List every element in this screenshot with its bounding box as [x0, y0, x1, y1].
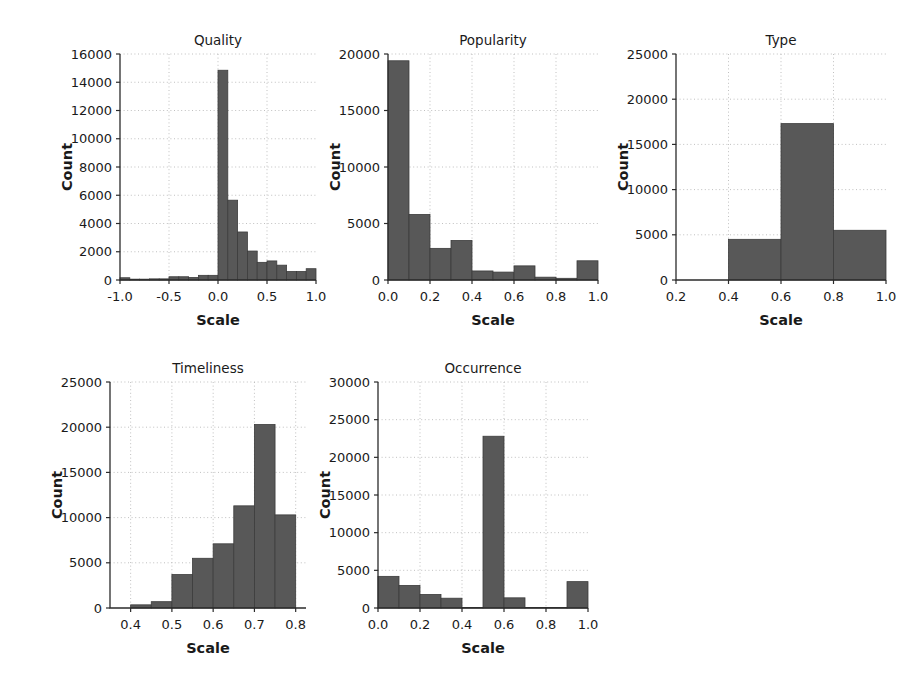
y-tick-label: 10000	[61, 510, 102, 525]
x-axis-label: Scale	[759, 312, 803, 328]
histogram-bar	[514, 266, 535, 280]
histogram-bar	[781, 124, 834, 280]
y-axis-label: Count	[49, 471, 65, 519]
x-tick-label: 0.8	[546, 289, 567, 304]
y-axis-label: Count	[615, 143, 631, 191]
histogram-bar	[430, 248, 451, 280]
histogram-bar	[420, 594, 441, 608]
y-tick-label: 20000	[61, 420, 102, 435]
histogram-bar	[504, 598, 525, 608]
histogram-bar	[254, 424, 275, 608]
y-tick-label: 12000	[71, 103, 112, 118]
y-axis-label: Count	[59, 143, 75, 191]
histogram-bar	[247, 251, 257, 280]
histogram-bar	[729, 239, 782, 280]
histogram-bar	[296, 272, 306, 280]
chart-title: Type	[764, 32, 796, 48]
x-tick-label: 0.2	[420, 289, 441, 304]
y-tick-label: 4000	[79, 216, 112, 231]
y-tick-label: 15000	[61, 465, 102, 480]
y-tick-label: 10000	[329, 525, 370, 540]
x-axis-label: Scale	[186, 640, 230, 656]
y-tick-label: 5000	[337, 563, 370, 578]
chart-panel-popularity: 050001000015000200000.00.20.40.60.81.0Po…	[326, 28, 608, 338]
histogram-bar	[306, 269, 316, 280]
chart-title: Quality	[194, 32, 242, 48]
y-tick-label: 20000	[339, 47, 380, 62]
y-tick-label: 30000	[329, 375, 370, 390]
x-tick-label: 0.6	[771, 289, 792, 304]
x-axis-label: Scale	[196, 312, 240, 328]
chart-panel-type: 05000100001500020000250000.20.40.60.81.0…	[614, 28, 896, 338]
histogram-bar	[567, 582, 588, 608]
histogram-bar	[451, 240, 472, 280]
histogram-type: 05000100001500020000250000.20.40.60.81.0…	[614, 28, 896, 338]
x-tick-label: 1.0	[306, 289, 327, 304]
chart-title: Timeliness	[171, 360, 243, 376]
chart-panel-quality: 0200040006000800010000120001400016000-1.…	[58, 28, 326, 338]
y-tick-label: 0	[362, 601, 370, 616]
x-axis-label: Scale	[461, 640, 505, 656]
bars	[378, 436, 588, 608]
y-tick-label: 10000	[71, 131, 112, 146]
x-tick-label: 0.8	[823, 289, 844, 304]
y-tick-label: 10000	[627, 182, 668, 197]
y-tick-label: 15000	[339, 103, 380, 118]
histogram-quality: 0200040006000800010000120001400016000-1.…	[58, 28, 326, 338]
chart-title: Occurrence	[444, 360, 521, 376]
x-tick-label: -0.5	[156, 289, 181, 304]
y-tick-label: 15000	[329, 488, 370, 503]
histogram-bar	[208, 275, 218, 280]
y-tick-label: 5000	[635, 227, 668, 242]
histogram-bar	[409, 214, 430, 280]
histogram-popularity: 050001000015000200000.00.20.40.60.81.0Po…	[326, 28, 608, 338]
histogram-bar	[238, 232, 248, 280]
histogram-bar	[399, 585, 420, 608]
histogram-bar	[198, 275, 208, 280]
chart-title: Popularity	[459, 32, 527, 48]
y-tick-label: 0	[372, 273, 380, 288]
histogram-bar	[277, 265, 287, 280]
histogram-bar	[172, 575, 193, 608]
histogram-bar	[257, 262, 267, 280]
histogram-bar	[193, 558, 214, 608]
histogram-bar	[493, 272, 514, 280]
chart-panel-timeliness: 05000100001500020000250000.40.50.60.70.8…	[48, 356, 316, 666]
histogram-bar	[151, 602, 172, 608]
x-tick-label: 1.0	[876, 289, 897, 304]
x-tick-label: 0.6	[494, 617, 515, 632]
x-tick-label: 0.4	[462, 289, 483, 304]
x-tick-label: 0.0	[368, 617, 389, 632]
histogram-figure: 0200040006000800010000120001400016000-1.…	[0, 0, 904, 680]
x-tick-label: 0.7	[244, 617, 265, 632]
histogram-bar	[228, 200, 238, 280]
histogram-bar	[388, 61, 409, 280]
bars	[388, 61, 598, 280]
x-tick-label: 0.6	[504, 289, 525, 304]
x-tick-label: 0.6	[203, 617, 224, 632]
y-tick-label: 8000	[79, 160, 112, 175]
y-tick-label: 25000	[61, 375, 102, 390]
histogram-timeliness: 05000100001500020000250000.40.50.60.70.8…	[48, 356, 316, 666]
y-tick-label: 6000	[79, 188, 112, 203]
histogram-bar	[275, 515, 296, 608]
y-tick-label: 25000	[627, 47, 668, 62]
x-tick-label: 0.0	[208, 289, 229, 304]
y-axis-label: Count	[327, 143, 343, 191]
y-tick-label: 10000	[339, 160, 380, 175]
histogram-bar	[472, 271, 493, 280]
histogram-bar	[213, 544, 234, 608]
histogram-bar	[483, 436, 504, 608]
y-tick-label: 2000	[79, 244, 112, 259]
x-tick-label: 1.0	[578, 617, 599, 632]
y-tick-label: 0	[104, 273, 112, 288]
y-tick-label: 25000	[329, 412, 370, 427]
x-tick-label: 0.8	[536, 617, 557, 632]
histogram-bar	[267, 261, 277, 280]
x-tick-label: 0.2	[410, 617, 431, 632]
x-axis-label: Scale	[471, 312, 515, 328]
bars	[729, 124, 887, 280]
histogram-bar	[577, 261, 598, 280]
x-tick-label: 0.4	[120, 617, 141, 632]
chart-panel-occurrence: 0500010000150002000025000300000.00.20.40…	[316, 356, 598, 666]
